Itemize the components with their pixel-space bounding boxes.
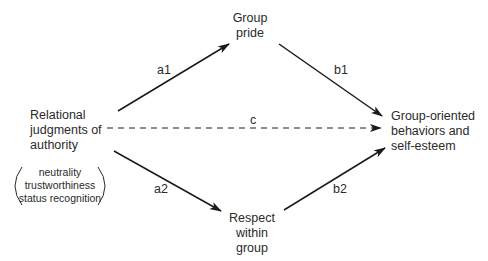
path-label-a1: a1 xyxy=(157,63,171,77)
path-a2-arrow xyxy=(114,151,221,211)
node-line: pride xyxy=(220,26,280,41)
node-line: Group xyxy=(220,11,280,26)
node-respect-within-group: Respect within group xyxy=(220,211,284,256)
path-label-a2: a2 xyxy=(154,182,168,196)
node-group-oriented-behaviors: Group-oriented behaviors and self-esteem xyxy=(391,109,475,154)
path-b1-arrow xyxy=(279,44,382,116)
node-relational-judgments: Relational judgments of authority xyxy=(30,108,102,153)
path-label-c: c xyxy=(250,113,256,127)
node-line: Respect xyxy=(220,211,284,226)
node-group-pride: Group pride xyxy=(220,11,280,41)
node-line: group xyxy=(220,241,284,256)
node-predictor-components: neutrality trustworthiness status recogn… xyxy=(18,166,102,205)
node-line: within xyxy=(220,226,284,241)
component-status-recognition: status recognition xyxy=(18,192,102,205)
node-line: judgments of xyxy=(30,123,102,138)
node-line: authority xyxy=(30,138,102,153)
path-a1-arrow xyxy=(118,44,229,111)
node-line: Group-oriented xyxy=(391,109,475,124)
component-neutrality: neutrality xyxy=(18,166,102,179)
component-trustworthiness: trustworthiness xyxy=(18,179,102,192)
node-line: behaviors and xyxy=(391,124,475,139)
node-line: Relational xyxy=(30,108,102,123)
path-b2-arrow xyxy=(284,148,385,210)
path-label-b2: b2 xyxy=(333,182,347,196)
path-label-b1: b1 xyxy=(334,63,348,77)
node-line: self-esteem xyxy=(391,139,475,154)
